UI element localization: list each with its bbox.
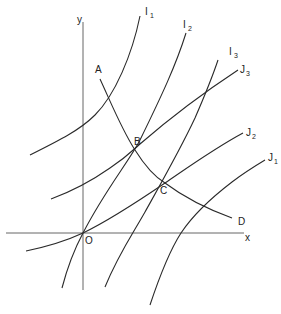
label-j1: J 1 <box>268 152 278 165</box>
svg-text:3: 3 <box>246 70 250 77</box>
label-j2: J 2 <box>246 127 256 140</box>
svg-text:2: 2 <box>188 25 192 32</box>
svg-text:I: I <box>183 19 186 30</box>
label-i3: I 3 <box>229 46 238 59</box>
origin-label: O <box>85 235 93 246</box>
x-axis-label: x <box>245 232 250 243</box>
svg-text:I: I <box>229 46 232 57</box>
curve-i1 <box>30 16 140 155</box>
label-j3: J 3 <box>240 64 250 77</box>
curve-i2 <box>62 33 186 288</box>
point-c-label: C <box>160 185 167 196</box>
svg-text:J: J <box>246 127 251 138</box>
diagram-canvas: A B C D y x O I 1 I 2 I 3 J 3 J 2 J 1 <box>0 0 281 314</box>
svg-text:J: J <box>268 152 273 163</box>
curve-j3 <box>51 70 238 199</box>
svg-text:1: 1 <box>274 158 278 165</box>
svg-text:3: 3 <box>234 52 238 59</box>
svg-text:1: 1 <box>150 12 154 19</box>
svg-text:J: J <box>240 64 245 75</box>
curve-a-d <box>100 79 232 218</box>
svg-text:I: I <box>145 6 148 17</box>
label-i2: I 2 <box>183 19 192 32</box>
y-axis-label: y <box>77 14 82 25</box>
point-b-label: B <box>134 136 141 147</box>
label-i1: I 1 <box>145 6 154 19</box>
point-a-label: A <box>95 64 102 75</box>
point-d-label: D <box>238 216 245 227</box>
svg-text:2: 2 <box>252 133 256 140</box>
